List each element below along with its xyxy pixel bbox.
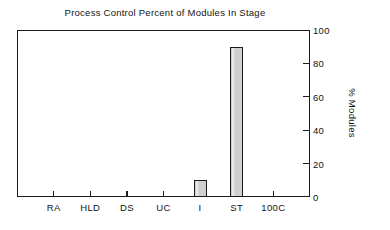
bar-highlight <box>232 48 235 196</box>
y-axis-label-0: 0 <box>313 192 319 203</box>
x-axis-tick <box>163 191 164 197</box>
bar-i[interactable] <box>194 180 207 197</box>
y-axis-tick <box>303 96 310 97</box>
x-axis-label-st: ST <box>230 202 243 213</box>
x-axis-label-uc: UC <box>156 202 171 213</box>
x-axis-label-hld: HLD <box>80 202 100 213</box>
y-axis-label-80: 80 <box>313 58 324 69</box>
x-axis-label-ra: RA <box>47 202 61 213</box>
bar-highlight <box>196 181 199 196</box>
plot-area <box>17 30 310 197</box>
x-axis-tick <box>90 191 91 197</box>
chart-container: Process Control Percent of Modules In St… <box>0 0 390 230</box>
x-axis-label-100c: 100C <box>261 202 285 213</box>
x-axis-label-ds: DS <box>120 202 134 213</box>
bar-st[interactable] <box>230 47 243 197</box>
y-axis-label-40: 40 <box>313 125 324 136</box>
x-axis-tick <box>126 191 127 197</box>
x-axis-tick <box>53 191 54 197</box>
y-axis-tick <box>303 163 310 164</box>
y-axis-title: % Modules <box>347 88 358 138</box>
y-axis-tick <box>303 63 310 64</box>
x-axis-label-i: I <box>199 202 202 213</box>
x-axis-tick <box>273 191 274 197</box>
y-axis-label-100: 100 <box>313 25 330 36</box>
y-axis-tick <box>303 130 310 131</box>
y-axis-label-60: 60 <box>313 91 324 102</box>
y-axis-label-20: 20 <box>313 158 324 169</box>
chart-title: Process Control Percent of Modules In St… <box>0 7 330 18</box>
